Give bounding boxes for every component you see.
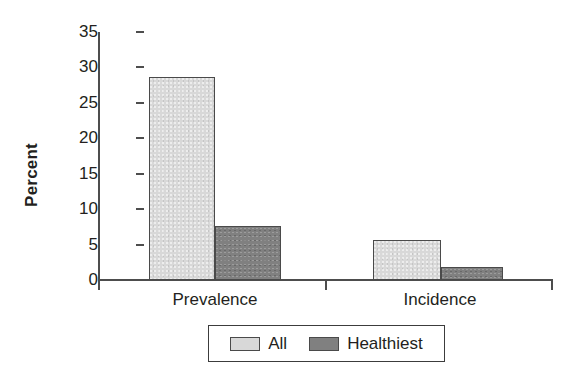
x-category-label-incidence: Incidence (404, 290, 477, 310)
x-tick-start (98, 281, 100, 290)
y-tick-label-0: 0 (64, 271, 98, 288)
legend-item-all: All (230, 335, 287, 352)
legend-label-healthiest: Healthiest (347, 335, 423, 352)
y-tick-label-15: 15 (64, 165, 98, 182)
y-tick-label-20: 20 (64, 129, 98, 146)
x-tick-end (551, 281, 553, 290)
legend-swatch-healthiest-icon (309, 337, 339, 351)
bar-chart: Percent 35 30 25 20 15 10 5 0 (0, 0, 578, 385)
bar-healthiest-prevalence (215, 226, 281, 280)
y-tick-label-25: 25 (64, 94, 98, 111)
x-tick-middle (325, 281, 327, 290)
y-tick-label-35: 35 (64, 23, 98, 40)
legend-swatch-all-icon (230, 337, 260, 351)
y-axis-title: Percent (22, 143, 42, 207)
y-axis-line (98, 32, 100, 281)
x-category-label-prevalence: Prevalence (172, 290, 257, 310)
legend-item-healthiest: Healthiest (309, 335, 423, 352)
bar-healthiest-incidence (441, 267, 503, 280)
legend: All Healthiest (208, 325, 445, 362)
legend-label-all: All (268, 335, 287, 352)
bar-all-prevalence (149, 77, 215, 280)
y-tick-label-5: 5 (64, 236, 98, 253)
y-tick-label-10: 10 (64, 200, 98, 217)
bar-all-incidence (373, 240, 441, 280)
y-tick-label-30: 30 (64, 58, 98, 75)
